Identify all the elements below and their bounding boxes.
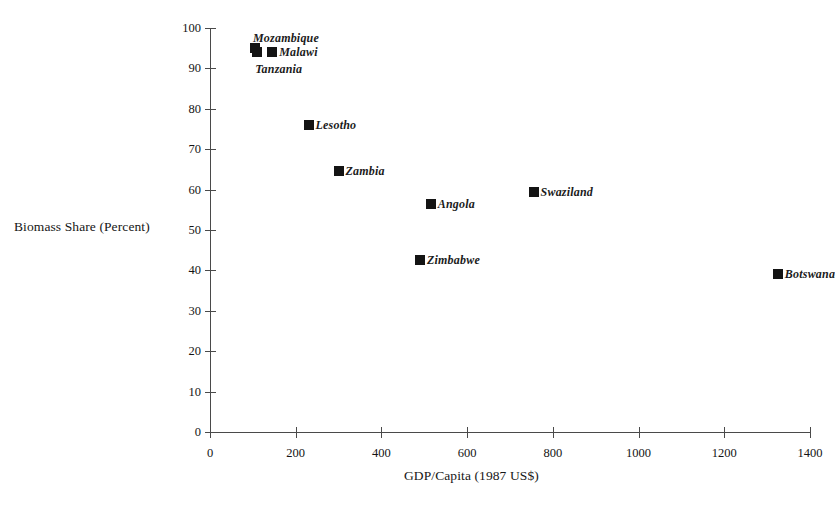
x-tick-label: 1200 (712, 446, 737, 461)
data-point-marker (426, 199, 436, 209)
x-axis-line (210, 432, 810, 433)
y-tick-label: 50 (189, 223, 202, 238)
data-point-marker (773, 269, 783, 279)
x-tick-mark (724, 427, 725, 438)
y-tick-mark (205, 311, 216, 312)
data-point-marker (334, 166, 344, 176)
x-tick-label: 200 (286, 446, 305, 461)
y-tick-label: 80 (189, 101, 202, 116)
x-tick-label: 800 (543, 446, 562, 461)
data-point-label: Zambia (346, 164, 385, 179)
y-tick-label: 60 (189, 182, 202, 197)
y-tick-mark (205, 68, 216, 69)
x-tick-mark (810, 427, 811, 438)
data-point-label: Angola (438, 196, 475, 211)
x-tick-label: 0 (207, 446, 213, 461)
y-tick-mark (205, 270, 216, 271)
data-point-marker (529, 187, 539, 197)
data-point-marker (267, 47, 277, 57)
y-tick-mark (205, 190, 216, 191)
x-tick-mark (467, 427, 468, 438)
y-tick-label: 0 (195, 425, 201, 440)
x-tick-label: 400 (372, 446, 391, 461)
data-point-marker (415, 255, 425, 265)
x-tick-label: 1400 (798, 446, 823, 461)
data-point-label: Zimbabwe (427, 253, 480, 268)
data-point-label: Swaziland (541, 184, 594, 199)
data-point-label: Tanzania (255, 62, 302, 77)
y-tick-mark (205, 28, 216, 29)
data-point-label: Lesotho (316, 117, 357, 132)
x-tick-mark (639, 427, 640, 438)
y-tick-label: 90 (189, 61, 202, 76)
y-tick-mark (205, 392, 216, 393)
y-tick-mark (205, 230, 216, 231)
data-point-label: Malawi (279, 45, 318, 60)
y-tick-label: 30 (189, 303, 202, 318)
x-tick-label: 600 (458, 446, 477, 461)
data-point-label: Botswana (785, 267, 835, 282)
plot-area: 0102030405060708090100 02004006008001000… (210, 28, 810, 432)
y-tick-label: 40 (189, 263, 202, 278)
y-tick-mark (205, 109, 216, 110)
data-point-marker (252, 47, 262, 57)
y-tick-label: 100 (182, 21, 201, 36)
y-tick-label: 70 (189, 142, 202, 157)
y-tick-mark (205, 149, 216, 150)
x-tick-mark (553, 427, 554, 438)
x-tick-label: 1000 (626, 446, 651, 461)
x-tick-mark (381, 427, 382, 438)
y-tick-label: 10 (189, 384, 202, 399)
y-tick-label: 20 (189, 344, 202, 359)
y-tick-mark (205, 351, 216, 352)
x-tick-mark (296, 427, 297, 438)
x-axis-label: GDP/Capita (1987 US$) (404, 468, 539, 484)
x-tick-mark (210, 427, 211, 438)
data-point-marker (304, 120, 314, 130)
y-axis-label: Biomass Share (Percent) (14, 219, 184, 235)
